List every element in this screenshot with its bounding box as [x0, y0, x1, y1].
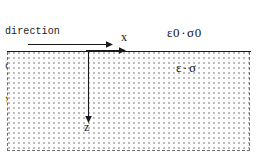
caption-line-1: direction	[5, 26, 78, 38]
interface-boundary-line	[7, 51, 251, 52]
upper-permittivity-symbol: ε0	[167, 25, 180, 40]
z-axis-arrow-icon	[83, 50, 94, 123]
upper-conductivity-symbol: σ0	[187, 25, 202, 40]
z-axis-label: z	[84, 120, 89, 135]
x-axis-label: x	[121, 30, 127, 45]
conducting-medium-region	[7, 52, 250, 151]
lower-conductivity-symbol: σ	[189, 60, 197, 75]
wave-transmission-diagram: direction of wave transmission x z ε0·σ0…	[0, 0, 258, 158]
lower-region-properties-label: ε·σ	[176, 60, 197, 76]
lower-separator-dot: ·	[182, 60, 189, 75]
upper-region-properties-label: ε0·σ0	[167, 25, 202, 41]
